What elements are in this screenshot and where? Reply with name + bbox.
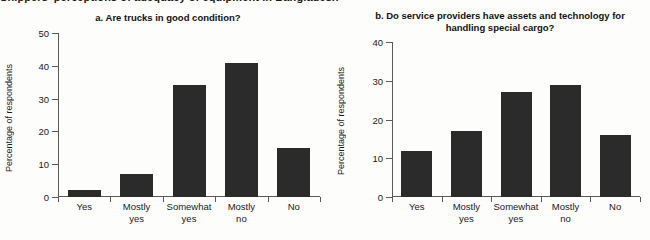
y-axis-tick-label: 0 — [44, 192, 49, 203]
y-axis-tick-label: 20 — [372, 114, 383, 125]
bar — [550, 85, 581, 197]
x-axis-tick — [320, 197, 321, 202]
chart-b-plot-area: 010203040 — [392, 42, 640, 197]
bar — [401, 151, 432, 198]
chart-b-y-axis — [392, 42, 393, 197]
y-axis-tick-label: 10 — [38, 159, 49, 170]
y-axis-tick — [52, 66, 58, 67]
chart-a-title: a. Are trucks in good condition? — [12, 12, 324, 24]
x-axis-category-label: No — [268, 201, 320, 213]
x-axis-category-label: Mostly yes — [110, 201, 162, 224]
x-axis-tick — [640, 197, 641, 202]
y-axis-tick-label: 30 — [372, 75, 383, 86]
bar — [501, 92, 532, 197]
x-axis-category-label: Somewhat yes — [491, 201, 541, 224]
y-axis-tick — [52, 131, 58, 132]
chart-panel-a: a. Are trucks in good condition? Percent… — [0, 0, 330, 240]
x-axis-category-label: No — [590, 201, 640, 213]
y-axis-tick — [52, 33, 58, 34]
bar — [451, 131, 482, 197]
chart-panel-b: b. Do service providers have assets and … — [330, 0, 650, 240]
bar — [600, 135, 631, 197]
y-axis-tick-label: 50 — [38, 28, 49, 39]
y-axis-tick-label: 40 — [372, 37, 383, 48]
x-axis-category-label: Somewhat yes — [163, 201, 215, 224]
x-axis-category-label: Mostly no — [215, 201, 267, 224]
chart-b-ylabel: Percentage of respondents — [336, 46, 346, 196]
y-axis-tick — [386, 120, 392, 121]
y-axis-tick-label: 40 — [38, 60, 49, 71]
y-axis-tick-label: 20 — [38, 126, 49, 137]
y-axis-tick — [386, 158, 392, 159]
chart-b-title: b. Do service providers have assets and … — [360, 10, 640, 33]
bar — [173, 85, 206, 197]
chart-a-ylabel: Percentage of respondents — [4, 42, 14, 194]
bar — [225, 63, 258, 197]
x-axis-category-label: Mostly no — [541, 201, 591, 224]
x-axis-category-label: Yes — [392, 201, 442, 213]
bar — [120, 174, 153, 197]
chart-a-plot-area: 01020304050 — [58, 33, 320, 197]
y-axis-tick-label: 10 — [372, 153, 383, 164]
bar — [68, 190, 101, 197]
y-axis-tick-label: 0 — [378, 192, 383, 203]
y-axis-tick — [386, 81, 392, 82]
y-axis-tick — [52, 99, 58, 100]
x-axis-category-label: Mostly yes — [442, 201, 492, 224]
y-axis-tick — [52, 164, 58, 165]
bar — [277, 148, 310, 197]
y-axis-tick-label: 30 — [38, 93, 49, 104]
x-axis-category-label: Yes — [58, 201, 110, 213]
y-axis-tick — [386, 42, 392, 43]
chart-a-y-axis — [58, 33, 59, 197]
